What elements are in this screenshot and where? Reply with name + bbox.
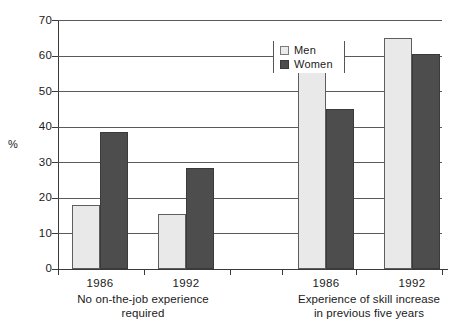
x-tick-mark-5 xyxy=(442,270,443,275)
bar-chart: % 70 60 50 40 30 20 10 0 xyxy=(0,0,456,335)
y-tick-mark-70 xyxy=(52,20,58,21)
y-axis-title: % xyxy=(8,138,18,150)
group-caption-no-experience: No on-the-job experience required xyxy=(38,292,248,320)
legend-swatch-women-icon xyxy=(280,60,289,69)
y-tick-mark-20 xyxy=(52,198,58,199)
group-caption-skill-increase: Experience of skill increase in previous… xyxy=(264,292,456,320)
x-tick-mark-2 xyxy=(230,270,231,275)
y-tick-mark-10 xyxy=(52,233,58,234)
y-tick-label-70: 70 xyxy=(26,15,52,26)
legend-item-men: Men xyxy=(280,44,344,57)
x-axis-line xyxy=(52,269,448,270)
bar-women-1992-skill-increase xyxy=(412,54,440,269)
x-label-1986-group2: 1986 xyxy=(296,277,356,289)
legend: Men Women xyxy=(273,41,345,73)
y-tick-label-60: 60 xyxy=(26,50,52,61)
group-caption-skill-increase-line2: in previous five years xyxy=(264,306,456,320)
legend-item-women: Women xyxy=(280,58,344,71)
y-tick-mark-30 xyxy=(52,162,58,163)
bar-women-1986-skill-increase xyxy=(326,109,354,269)
x-tick-mark-0 xyxy=(58,270,59,275)
y-tick-label-20: 20 xyxy=(26,192,52,203)
y-axis-line xyxy=(58,20,59,269)
legend-label-women: Women xyxy=(294,59,333,70)
bar-men-1992-skill-increase xyxy=(384,38,412,269)
x-tick-mark-1 xyxy=(144,270,145,275)
x-tick-mark-4 xyxy=(356,270,357,275)
bar-men-1986-skill-increase xyxy=(298,66,326,269)
y-tick-label-50: 50 xyxy=(26,86,52,97)
x-label-1992-group1: 1992 xyxy=(156,277,216,289)
y-tick-label-40: 40 xyxy=(26,121,52,132)
x-tick-mark-3 xyxy=(282,270,283,275)
y-tick-mark-60 xyxy=(52,56,58,57)
group-caption-skill-increase-line1: Experience of skill increase xyxy=(264,292,456,306)
bar-women-1992-no-experience xyxy=(186,168,214,269)
y-tick-mark-50 xyxy=(52,91,58,92)
bar-men-1986-no-experience xyxy=(72,205,100,269)
legend-label-men: Men xyxy=(294,45,316,56)
bar-women-1986-no-experience xyxy=(100,132,128,269)
y-tick-label-10: 10 xyxy=(26,228,52,239)
bar-men-1992-no-experience xyxy=(158,214,186,269)
group-caption-no-experience-line1: No on-the-job experience xyxy=(38,292,248,306)
group-caption-no-experience-line2: required xyxy=(38,306,248,320)
y-tick-label-0: 0 xyxy=(26,263,52,274)
gridline-70 xyxy=(58,20,442,21)
plot-area: Men Women xyxy=(58,20,442,269)
y-tick-label-30: 30 xyxy=(26,157,52,168)
y-tick-mark-40 xyxy=(52,127,58,128)
x-label-1992-group2: 1992 xyxy=(382,277,442,289)
legend-swatch-men-icon xyxy=(280,46,289,55)
x-label-1986-group1: 1986 xyxy=(70,277,130,289)
